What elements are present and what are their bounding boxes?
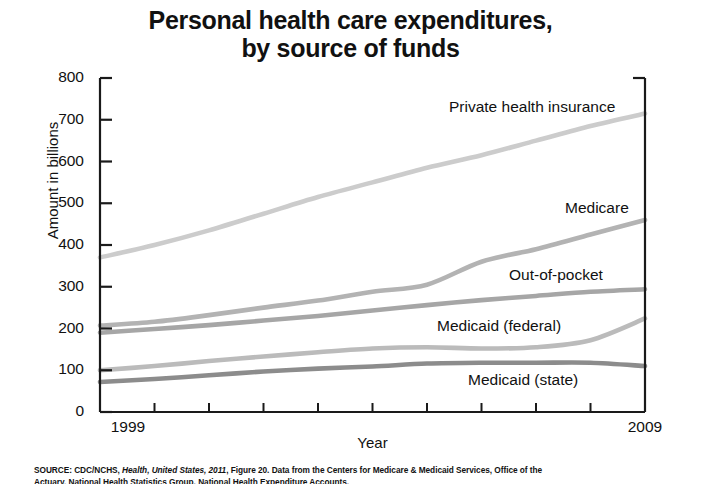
series-label-out-of-pocket: Out-of-pocket	[509, 266, 603, 284]
y-tick-label: 100	[32, 360, 84, 378]
source-note: SOURCE: CDC/NCHS, Health, United States,…	[34, 464, 694, 484]
source-suffix: , Figure 20. Data from the Centers for M…	[226, 465, 542, 475]
y-tick-label: 0	[32, 402, 84, 420]
series-label-medicare: Medicare	[565, 199, 629, 217]
source-line-2: Actuary, National Health Statistics Grou…	[34, 476, 694, 484]
y-tick-label: 200	[32, 319, 84, 337]
series-line-private-health-insurance	[100, 113, 645, 257]
figure-container: Personal health care expenditures, by so…	[0, 0, 701, 489]
y-axis-title: Amount in billions	[44, 81, 61, 281]
x-axis-title: Year	[100, 434, 645, 451]
source-prefix: SOURCE: CDC/NCHS,	[34, 465, 122, 475]
series-label-medicaid-state: Medicaid (state)	[468, 371, 578, 389]
chart-svg	[0, 0, 701, 460]
series-label-medicaid-federal: Medicaid (federal)	[437, 317, 561, 335]
series-line-out-of-pocket	[100, 289, 645, 332]
x-tick-marks	[155, 403, 646, 412]
series-label-private-health-insurance: Private health insurance	[449, 98, 615, 116]
source-publication: Health, United States, 2011	[122, 465, 226, 475]
series-paths	[100, 113, 645, 381]
plot-area: 0100200300400500600700800 1999 2009 Amou…	[0, 0, 701, 460]
